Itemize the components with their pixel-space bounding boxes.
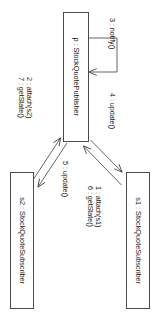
- message-attach-s1-line2: 6 : getState(): [85, 186, 93, 227]
- message-label-attach-s2: 2 : attach(s2) 7 : getState(): [16, 77, 33, 118]
- message-label-update-s1: 4 : update(): [108, 93, 116, 129]
- message-notify-line1: 3 : notify(): [108, 18, 116, 49]
- message-label-attach-s1: 1 : attach(s1) 6 : getState(): [85, 186, 102, 227]
- message-label-update-s2: 5 : update(): [61, 161, 69, 197]
- object-label-subscriber2: s2 : StockQuoteSubscriber: [18, 197, 25, 284]
- connector-publisher-to-s1: [91, 140, 123, 172]
- uml-collaboration-diagram: p : StockQuotePublisher s1 : StockQuoteS…: [0, 0, 154, 325]
- message-label-notify: 3 : notify(): [108, 18, 116, 49]
- message-attach-s1-line1: 1 : attach(s1): [94, 186, 102, 227]
- message-update-s2-line1: 5 : update(): [61, 161, 69, 197]
- object-node-subscriber2[interactable]: s2 : StockQuoteSubscriber: [10, 172, 34, 309]
- object-label-subscriber1: s1 : StockQuoteSubscriber: [134, 197, 141, 284]
- connector-s2-to-publisher: [31, 138, 61, 183]
- message-attach-s2-line1: 2 : attach(s2): [25, 77, 33, 118]
- object-node-subscriber1[interactable]: s1 : StockQuoteSubscriber: [126, 172, 150, 309]
- object-node-publisher[interactable]: p : StockQuotePublisher: [63, 12, 89, 142]
- message-attach-s2-line2: 7 : getState(): [16, 77, 24, 118]
- object-label-publisher: p : StockQuotePublisher: [72, 38, 79, 117]
- message-update-s1-line1: 4 : update(): [108, 93, 116, 129]
